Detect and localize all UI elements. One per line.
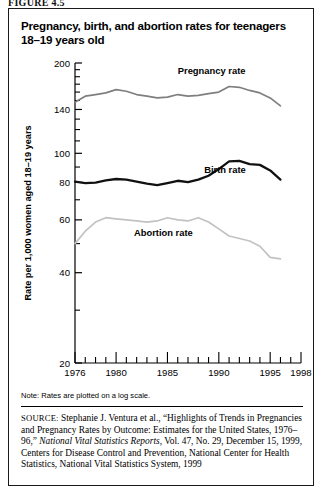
y-tick-label[interactable]: 80 xyxy=(59,177,70,188)
series-line-birth-rate[interactable] xyxy=(75,161,280,185)
x-tick-label[interactable]: 1990 xyxy=(208,367,229,378)
y-tick-label[interactable]: 200 xyxy=(54,58,70,69)
series-label-birth-rate[interactable]: Birth rate xyxy=(204,164,246,175)
y-tick-label[interactable]: 100 xyxy=(54,148,70,159)
y-tick-label[interactable]: 60 xyxy=(59,214,70,225)
x-tick-label[interactable]: 1998 xyxy=(290,367,311,378)
series-label-pregnancy-rate[interactable]: Pregnancy rate xyxy=(178,65,246,76)
y-tick-label[interactable]: 40 xyxy=(59,267,70,278)
source-citation: SOURCE: Stephanie J. Ventura et al., “Hi… xyxy=(21,413,307,471)
x-tick-label[interactable]: 1980 xyxy=(105,367,126,378)
source-publication: National Vital Statistics Reports, xyxy=(39,436,162,446)
chart-plot-area: 2001401008060402019761980198519901995199… xyxy=(9,55,315,395)
figure-inner: Pregnancy, birth, and abortion rates for… xyxy=(9,9,313,485)
line-chart: 2001401008060402019761980198519901995199… xyxy=(9,55,315,395)
x-tick-label[interactable]: 1985 xyxy=(157,367,178,378)
series-line-pregnancy-rate[interactable] xyxy=(75,86,280,105)
divider xyxy=(21,406,303,407)
figure-label: FIGURE 4.5 xyxy=(8,0,65,8)
series-label-abortion-rate[interactable]: Abortion rate xyxy=(134,227,193,238)
y-tick-label[interactable]: 140 xyxy=(54,104,70,115)
figure-frame: Pregnancy, birth, and abortion rates for… xyxy=(8,8,314,486)
series-line-abortion-rate[interactable] xyxy=(75,218,280,259)
x-tick-label[interactable]: 1995 xyxy=(260,367,281,378)
chart-note: Note: Rates are plotted on a log scale. xyxy=(21,391,305,400)
source-tag: SOURCE: xyxy=(21,413,59,423)
y-axis-label[interactable]: Rate per 1,000 women aged 18–19 years xyxy=(23,125,33,300)
x-tick-label[interactable]: 1976 xyxy=(64,367,85,378)
chart-title: Pregnancy, birth, and abortion rates for… xyxy=(21,19,303,47)
